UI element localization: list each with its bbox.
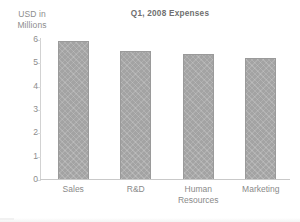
bar[interactable]	[120, 51, 151, 179]
chart-screenshot: USD in Millions Q1, 2008 Expenses 654321…	[0, 0, 300, 222]
y-axis-tick-label: 6	[22, 34, 38, 44]
scan-corner-artifact	[0, 218, 14, 220]
x-axis-label: R&D	[102, 184, 170, 195]
y-axis-tick-label: 3	[22, 104, 38, 114]
y-axis-tick-label: 2	[22, 127, 38, 137]
x-axis-label-line: Resources	[164, 195, 232, 206]
x-axis-label: Sales	[39, 184, 107, 195]
x-axis-label-line: Marketing	[227, 184, 295, 195]
y-axis-title-line-1: USD in	[6, 9, 58, 20]
bar[interactable]	[245, 58, 276, 179]
bar[interactable]	[183, 54, 214, 179]
y-axis-tick-label: 5	[22, 57, 38, 67]
x-axis-label-line: R&D	[102, 184, 170, 195]
x-axis-label-line: Sales	[39, 184, 107, 195]
plot-area: 6543210	[40, 40, 290, 180]
scan-edge-artifact	[0, 218, 300, 222]
x-axis-label: Marketing	[227, 184, 295, 195]
y-axis-tick-label: 4	[22, 81, 38, 91]
x-axis-line	[40, 179, 290, 180]
y-axis-title: USD in Millions	[6, 9, 58, 31]
x-axis-label-line: Human	[164, 184, 232, 195]
bar[interactable]	[58, 41, 89, 179]
y-axis-tick-label: 1	[22, 151, 38, 161]
y-axis-title-line-2: Millions	[6, 20, 58, 31]
y-axis-tick-label: 0	[22, 174, 38, 184]
x-axis-label: HumanResources	[164, 184, 232, 206]
chart-title: Q1, 2008 Expenses	[60, 9, 280, 18]
